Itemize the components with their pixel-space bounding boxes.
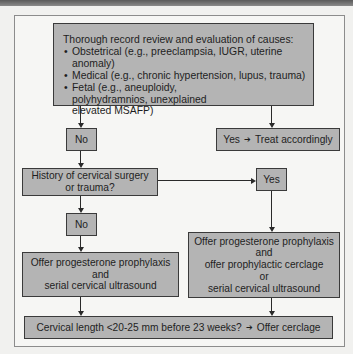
treat-label: Treat accordingly — [255, 134, 333, 146]
connector-line — [271, 191, 272, 228]
arrow-right-icon: ➔ — [246, 322, 253, 334]
offer-line: Offer progesterone prophylaxis — [31, 257, 171, 269]
no-box-2: No — [66, 213, 97, 236]
cervical-length-box: Cervical length <20-25 mm before 23 week… — [24, 316, 333, 339]
offer-cerclage-label: Offer cerclage — [257, 322, 321, 334]
cause-item: Medical (e.g., chronic hypertension, lup… — [63, 70, 307, 82]
connector-line — [271, 106, 272, 124]
offer-line: and — [256, 247, 273, 259]
right-offer-box: Offer progesterone prophylaxis and offer… — [188, 232, 340, 298]
connector-line — [80, 297, 81, 312]
evaluation-box: Thorough record review and evaluation of… — [53, 23, 314, 106]
offer-line: or — [259, 271, 268, 283]
evaluation-title: Thorough record review and evaluation of… — [63, 34, 307, 46]
scan-top-band — [0, 0, 353, 6]
yes-box: Yes — [256, 168, 287, 191]
connector-line — [158, 180, 251, 181]
arrow-right-icon: ➔ — [244, 134, 251, 146]
treat-accordingly-box: Yes ➔ Treat accordingly — [216, 128, 340, 151]
cervical-history-question-box: History of cervical surgery or trauma? — [22, 168, 158, 196]
left-offer-box: Offer progesterone prophylaxis and seria… — [22, 252, 179, 297]
question-line-2: or trauma? — [65, 182, 114, 194]
no-box-1: No — [66, 128, 97, 151]
cause-item: Obstetrical (e.g., preeclampsia, IUGR, u… — [63, 46, 307, 70]
cervical-length-condition: Cervical length <20-25 mm before 23 week… — [36, 322, 241, 334]
yes-label: Yes — [223, 134, 240, 146]
yes-label: Yes — [263, 174, 280, 186]
connector-line — [80, 106, 81, 124]
question-line-1: History of cervical surgery — [31, 170, 148, 182]
no-label: No — [75, 219, 88, 231]
offer-line: offer prophylactic cerclage — [205, 259, 324, 271]
offer-line: and — [92, 269, 109, 281]
connector-line — [271, 298, 272, 312]
offer-line: serial cervical ultrasound — [208, 283, 320, 295]
offer-line: serial cervical ultrasound — [44, 280, 156, 292]
no-label: No — [75, 134, 88, 146]
offer-line: Offer progesterone prophylaxis — [194, 236, 334, 248]
